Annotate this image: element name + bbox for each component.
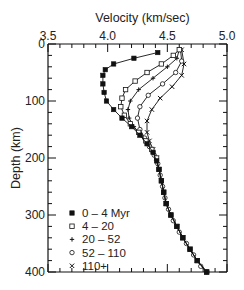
filled-square-marker: [181, 236, 185, 240]
open-square-marker: [119, 105, 123, 109]
y-tick-label: 100: [25, 94, 45, 108]
open-circle-marker: [146, 93, 150, 97]
legend-label: 4 – 20: [82, 220, 114, 232]
legend: 0 – 4 Myr4 – 2020 – 5252 – 110110+: [70, 207, 130, 272]
series-line: [138, 50, 207, 272]
filled-square-marker: [103, 67, 107, 71]
open-square-marker: [177, 48, 181, 52]
legend-item: 4 – 20: [70, 220, 114, 232]
filled-square-marker: [132, 56, 136, 60]
open-square-marker: [145, 70, 149, 74]
legend-item: 52 – 110: [70, 247, 126, 259]
x-tick-label: 5.0: [219, 29, 236, 43]
filled-square-marker: [111, 107, 115, 111]
open-square-marker: [70, 224, 74, 228]
filled-square-marker: [156, 50, 160, 54]
legend-label: 20 – 52: [82, 233, 120, 245]
filled-square-marker: [70, 211, 74, 215]
plus-marker: [126, 107, 130, 111]
open-circle-marker: [179, 59, 183, 63]
cross-marker: [158, 96, 162, 100]
open-circle-marker: [173, 70, 177, 74]
plus-marker: [70, 237, 74, 241]
open-square-marker: [159, 62, 163, 66]
legend-label: 52 – 110: [82, 247, 126, 259]
y-axis-title: Depth (km): [9, 127, 23, 189]
filled-square-marker: [157, 167, 161, 171]
y-tick-label: 300: [25, 208, 45, 222]
filled-square-marker: [129, 124, 133, 128]
filled-square-marker: [195, 258, 199, 262]
filled-square-marker: [159, 179, 163, 183]
y-tick-label: 0: [38, 37, 45, 51]
x-tick-label: 4.5: [159, 29, 176, 43]
filled-square-marker: [120, 116, 124, 120]
open-circle-marker: [138, 105, 142, 109]
chart-canvas: 3.54.04.55.00100200300400Velocity (km/se…: [0, 0, 244, 290]
filled-square-marker: [102, 90, 106, 94]
x-axis-title: Velocity (km/sec): [95, 11, 189, 25]
filled-square-marker: [111, 62, 115, 66]
filled-square-marker: [169, 213, 173, 217]
legend-item: 20 – 52: [70, 233, 121, 245]
filled-square-marker: [154, 159, 158, 163]
legend-item: 0 – 4 Myr: [70, 207, 130, 219]
open-square-marker: [123, 87, 127, 91]
open-square-marker: [120, 96, 124, 100]
velocity-depth-chart: 3.54.04.55.00100200300400Velocity (km/se…: [0, 0, 244, 290]
open-circle-marker: [70, 250, 74, 254]
y-tick-label: 400: [25, 265, 45, 279]
series-52-110: [135, 48, 209, 275]
series-line: [128, 50, 207, 272]
x-tick-label: 4.0: [99, 29, 116, 43]
filled-square-marker: [104, 99, 108, 103]
filled-square-marker: [101, 82, 105, 86]
filled-square-marker: [145, 142, 149, 146]
filled-square-marker: [151, 150, 155, 154]
cross-marker: [70, 264, 74, 268]
legend-label: 110+: [82, 260, 107, 272]
cross-marker: [150, 107, 154, 111]
open-square-marker: [171, 53, 175, 57]
cross-marker: [170, 85, 174, 89]
filled-square-marker: [175, 224, 179, 228]
filled-square-marker: [138, 133, 142, 137]
legend-item: 110+: [70, 260, 108, 272]
filled-square-marker: [101, 73, 105, 77]
open-square-marker: [133, 79, 137, 83]
series-4-20: [119, 48, 209, 275]
filled-square-marker: [162, 190, 166, 194]
legend-label: 0 – 4 Myr: [82, 207, 130, 219]
open-circle-marker: [160, 82, 164, 86]
filled-square-marker: [164, 201, 168, 205]
open-circle-marker: [135, 116, 139, 120]
axes: 3.54.04.55.00100200300400Velocity (km/se…: [9, 11, 236, 279]
filled-square-marker: [205, 270, 209, 274]
series-20-52: [126, 48, 209, 275]
filled-square-marker: [188, 247, 192, 251]
y-tick-label: 200: [25, 151, 45, 165]
